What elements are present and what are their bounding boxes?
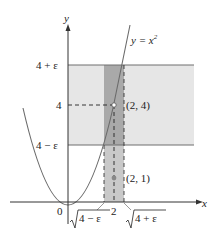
- y-tick-4-plus-epsilon: 4 + ε: [36, 59, 58, 71]
- x-tick-2: 2: [111, 205, 117, 217]
- epsilon-delta-diagram: y x 0 y = x2 4 + ε 4 4 − ε (2, 4) (2, 1)…: [0, 0, 215, 236]
- y-axis-label: y: [63, 12, 69, 24]
- radicand-left: 4 − ε: [79, 212, 101, 224]
- x-tick-sqrt-4-minus-epsilon: 4 − ε: [70, 203, 110, 228]
- leader-right: [124, 203, 131, 210]
- y-tick-4: 4: [56, 99, 62, 111]
- y-axis-arrow-icon: [66, 24, 71, 31]
- x-axis-label: x: [201, 197, 207, 209]
- leader-left: [97, 203, 104, 210]
- point-2-4: [112, 103, 116, 107]
- y-tick-4-minus-epsilon: 4 − ε: [36, 139, 58, 151]
- origin-label: 0: [57, 205, 63, 217]
- curve-label-exponent: 2: [154, 33, 158, 41]
- point-2-1: [112, 176, 117, 181]
- x-tick-sqrt-4-plus-epsilon: 4 + ε: [124, 203, 166, 228]
- point-label-2-4: (2, 4): [126, 99, 150, 112]
- radicand-right: 4 + ε: [135, 212, 157, 224]
- point-label-2-1: (2, 1): [126, 172, 150, 185]
- curve-label: y = x2: [130, 33, 158, 46]
